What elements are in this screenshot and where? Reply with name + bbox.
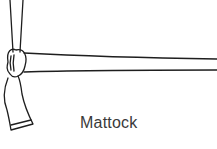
pick-blade <box>10 0 23 52</box>
adze-blade <box>4 76 33 130</box>
handle-bottom-edge <box>24 70 217 72</box>
figure-caption: Mattock <box>80 114 152 132</box>
handle-top-edge <box>24 53 217 59</box>
